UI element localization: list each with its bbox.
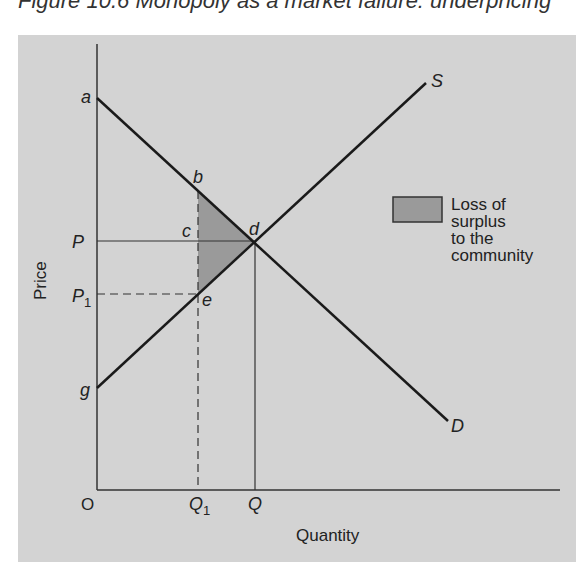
chart-svg: a b c d e g S D P P1 O Q1 Q Quantity Pri…: [0, 0, 587, 571]
legend-line: community: [451, 247, 533, 264]
legend-line: surplus: [451, 213, 533, 230]
point-g-label: g: [80, 380, 90, 400]
x-axis-title: Quantity: [296, 526, 360, 545]
legend-line: to the: [451, 230, 533, 247]
loss-of-surplus-area: [198, 191, 255, 294]
point-d-label: d: [249, 219, 260, 239]
legend-label: Loss of surplus to the community: [451, 196, 533, 264]
demand-label: D: [451, 416, 464, 436]
legend-line: Loss of: [451, 196, 533, 213]
price-p-label: P: [72, 232, 84, 252]
point-c-label: c: [182, 221, 191, 241]
y-axis-title: Price: [31, 261, 50, 300]
supply-label: S: [431, 71, 443, 91]
quantity-q-label: Q: [248, 494, 262, 514]
supply-curve: [97, 83, 426, 388]
demand-curve: [97, 98, 448, 421]
point-a-label: a: [81, 87, 91, 107]
legend-swatch: [393, 197, 442, 222]
point-b-label: b: [193, 167, 203, 187]
origin-label: O: [81, 495, 94, 514]
point-e-label: e: [202, 290, 212, 310]
quantity-q1-label: Q1: [189, 494, 210, 518]
price-p1-label: P1: [72, 286, 91, 310]
